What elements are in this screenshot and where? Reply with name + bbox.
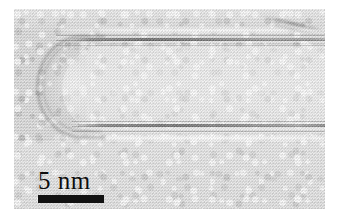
scale-bar: 5 nm bbox=[38, 168, 158, 203]
tem-figure: 5 nm bbox=[0, 0, 337, 221]
scale-bar-rule bbox=[38, 195, 104, 203]
scale-bar-label: 5 nm bbox=[38, 168, 158, 193]
